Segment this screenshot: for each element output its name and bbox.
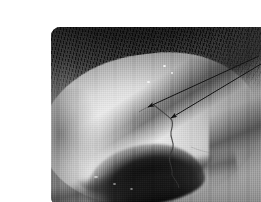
- vignette: [51, 27, 261, 202]
- page-root: Grayscale clinical close-up photograph o…: [0, 0, 261, 202]
- clinical-eye-photograph: Grayscale clinical close-up photograph o…: [51, 27, 261, 202]
